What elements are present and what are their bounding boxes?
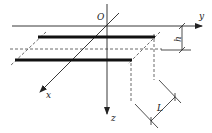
h-label: h [173,36,183,42]
l-label: L [156,103,163,113]
y-axis-label: y [198,11,205,21]
z-axis-label: z [110,113,116,123]
origin-label: O [97,12,105,22]
diagram-canvas: y z x O h L [0,0,212,133]
conductor-plane [10,32,162,102]
x-axis-label: x [46,90,51,100]
